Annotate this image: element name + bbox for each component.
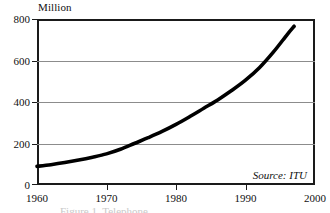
x-tick-1990 xyxy=(246,185,247,190)
figure-container: Million 0200400600800 196019701980199020… xyxy=(0,0,330,213)
data-series-telephone-lines xyxy=(37,19,315,185)
y-tick-label-400: 400 xyxy=(14,96,31,108)
x-tick-1970 xyxy=(107,185,108,190)
x-tick-label-1990: 1990 xyxy=(235,192,257,204)
chart-plot-area: 0200400600800 19601970198019902000 Sourc… xyxy=(37,19,315,185)
y-tick-label-800: 800 xyxy=(14,13,31,25)
y-tick-label-0: 0 xyxy=(25,179,31,191)
y-tick-label-600: 600 xyxy=(14,55,31,67)
source-attribution: Source: ITU xyxy=(253,169,307,181)
x-tick-label-1960: 1960 xyxy=(26,192,48,204)
x-tick-label-1970: 1970 xyxy=(96,192,118,204)
x-tick-label-2000: 2000 xyxy=(304,192,326,204)
y-axis-unit-title: Million xyxy=(38,1,72,13)
x-tick-label-1980: 1980 xyxy=(165,192,187,204)
y-tick-label-200: 200 xyxy=(14,138,31,150)
figure-caption: Figure 1. Telephone xyxy=(60,205,148,213)
x-tick-1980 xyxy=(176,185,177,190)
series-line-path xyxy=(37,26,294,166)
